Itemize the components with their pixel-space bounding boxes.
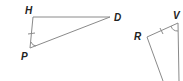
label-v: V — [173, 10, 181, 21]
diagram-canvas: H D P R V — [0, 0, 183, 81]
side-r-down — [147, 37, 163, 81]
triangle-hdp — [28, 17, 110, 48]
side-v-down — [178, 23, 179, 81]
label-d: D — [114, 12, 121, 23]
tick-mark-hp — [28, 33, 35, 34]
angle-mark-v — [171, 26, 178, 31]
label-h: H — [25, 5, 33, 16]
triangle-hdp-shape — [30, 17, 110, 48]
label-r: R — [134, 31, 142, 42]
triangle-rv — [147, 23, 179, 81]
label-p: P — [21, 51, 28, 62]
angle-mark-p — [31, 42, 36, 46]
